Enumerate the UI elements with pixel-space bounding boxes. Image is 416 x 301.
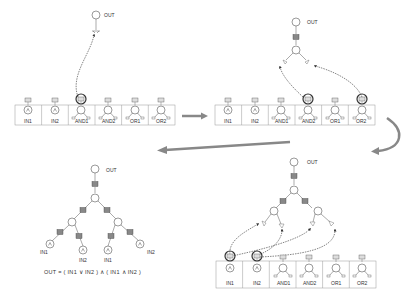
drag-path	[232, 229, 310, 256]
svg-text:IN2: IN2	[147, 249, 155, 255]
drag-path	[260, 230, 335, 257]
svg-text:IN1: IN1	[224, 118, 232, 124]
svg-text:AND1: AND1	[275, 118, 289, 124]
leaf-in2-right: IN2	[136, 240, 155, 255]
output-label: OUT	[307, 19, 318, 25]
svg-text:OR1: OR1	[130, 118, 141, 124]
palette-item-in1[interactable]: IN1	[225, 251, 235, 286]
svg-text:IN1: IN1	[226, 280, 234, 286]
svg-text:AND2: AND2	[303, 280, 317, 286]
root-gate	[283, 46, 309, 64]
palette-item-in1[interactable]: IN1	[24, 98, 32, 124]
component-palette: IN1 IN2 AND1 AND2 OR1 OR2	[216, 251, 376, 288]
svg-text:IN1: IN1	[40, 249, 48, 255]
component-palette: IN1 IN2 AND1 AND2 OR1 OR2	[15, 94, 175, 125]
svg-text:IN2: IN2	[253, 280, 261, 286]
drag-path	[280, 67, 303, 97]
boolean-equation: OUT = ( IN1 ∨ IN2 ) ∧ ( IN1 ∧ IN2 )	[44, 269, 141, 275]
root-gate	[74, 194, 116, 219]
left-gate	[52, 218, 83, 246]
panel-4: OUT IN1 IN2 IN1 IN2 OUT = ( IN1 ∨ IN2 )	[40, 165, 155, 275]
svg-text:IN1: IN1	[24, 118, 32, 124]
drag-path	[315, 66, 362, 97]
component-palette: IN1 IN2 AND1 AND2 OR1 OR2	[215, 94, 375, 125]
svg-text:IN1: IN1	[104, 257, 112, 263]
svg-text:OR2: OR2	[356, 118, 367, 124]
output-node: OUT	[290, 158, 318, 185]
palette-item-in1[interactable]: IN1	[224, 98, 232, 124]
flow-arrow-1	[182, 113, 208, 120]
leaf-in1-right: IN1	[104, 246, 112, 263]
output-label: OUT	[307, 159, 318, 165]
svg-text:AND1: AND1	[277, 280, 291, 286]
panel-2: OUT IN1 IN2 AND1 AND2 OR1 OR2	[215, 18, 375, 125]
root-gate	[276, 186, 312, 208]
drag-path	[76, 35, 94, 97]
svg-text:AND1: AND1	[75, 118, 89, 124]
panel-3: OUT	[216, 158, 376, 288]
svg-text:IN2: IN2	[251, 118, 259, 124]
svg-text:IN2: IN2	[51, 118, 59, 124]
output-node: OUT	[92, 11, 115, 33]
svg-text:OR1: OR1	[331, 280, 342, 286]
flow-arrow-3	[157, 142, 290, 154]
output-label: OUT	[106, 167, 117, 173]
right-gate	[108, 218, 139, 246]
drag-path	[230, 224, 258, 255]
svg-text:AND2: AND2	[302, 118, 316, 124]
leaf-in1-left: IN1	[40, 240, 54, 255]
palette-item-in2[interactable]: IN2	[252, 251, 262, 286]
output-label: OUT	[104, 12, 115, 18]
drag-path	[258, 230, 282, 255]
svg-text:OR2: OR2	[357, 280, 368, 286]
svg-text:AND2: AND2	[102, 118, 116, 124]
palette-item-in2[interactable]: IN2	[251, 98, 259, 124]
diagram-canvas: OUT IN1 IN2 AND1 AND2 OR1 OR2 O	[0, 0, 416, 301]
svg-text:OR2: OR2	[156, 118, 167, 124]
left-gate	[262, 207, 284, 228]
right-gate	[310, 207, 334, 226]
panel-1: OUT IN1 IN2 AND1 AND2 OR1 OR2	[15, 11, 175, 125]
svg-text:OR1: OR1	[330, 118, 341, 124]
output-node: OUT	[292, 18, 318, 45]
leaf-in2-left: IN2	[79, 246, 87, 263]
palette-item-in2[interactable]: IN2	[51, 98, 59, 124]
svg-text:IN2: IN2	[79, 257, 87, 263]
output-node: OUT	[91, 165, 117, 193]
